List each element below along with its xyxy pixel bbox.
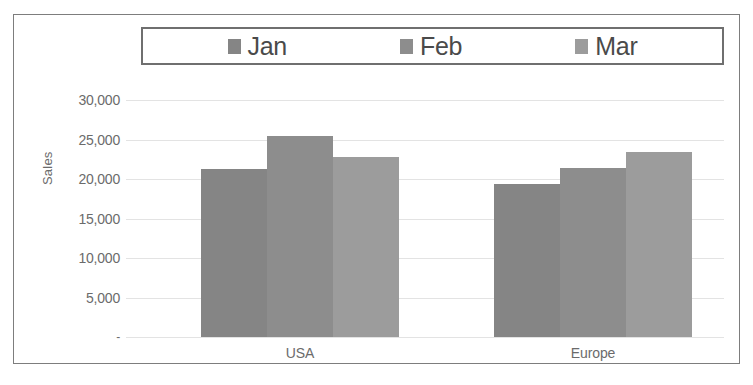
x-axis: USAEurope (126, 345, 724, 369)
y-tick-label-15000: 15,000 (78, 211, 120, 227)
bar-europe-feb[interactable] (560, 168, 626, 337)
legend-label-jan: Jan (248, 34, 287, 59)
chart-frame: Jan Feb Mar Sales 30,00025,00020,00015,0… (13, 14, 740, 364)
legend-label-mar: Mar (595, 34, 637, 59)
gridline-0 (126, 337, 724, 338)
bar-usa-jan[interactable] (201, 169, 267, 337)
bar-series-container (126, 100, 724, 337)
bar-europe-mar[interactable] (626, 152, 692, 337)
legend-swatch-feb (400, 39, 413, 54)
y-axis: 30,00025,00020,00015,00010,0005,000- (42, 100, 120, 337)
legend-item-jan[interactable]: Jan (228, 34, 287, 59)
bar-usa-feb[interactable] (267, 136, 333, 337)
legend-label-feb: Feb (420, 34, 462, 59)
y-tick-label-20000: 20,000 (78, 171, 120, 187)
x-axis-label-europe: Europe (571, 345, 616, 361)
y-tick-label-30000: 30,000 (78, 92, 120, 108)
y-tick-label-25000: 25,000 (78, 132, 120, 148)
bar-usa-mar[interactable] (333, 157, 399, 338)
plot-area (126, 100, 724, 337)
bar-europe-jan[interactable] (494, 184, 560, 337)
y-tick-label-0: - (116, 330, 120, 344)
y-tick-label-10000: 10,000 (78, 250, 120, 266)
x-axis-label-usa: USA (286, 345, 315, 361)
chart-legend[interactable]: Jan Feb Mar (141, 27, 724, 65)
legend-item-feb[interactable]: Feb (400, 34, 462, 59)
y-tick-label-5000: 5,000 (86, 290, 120, 306)
legend-swatch-jan (228, 39, 241, 54)
chart-screenshot: Jan Feb Mar Sales 30,00025,00020,00015,0… (0, 0, 753, 385)
legend-item-mar[interactable]: Mar (575, 34, 637, 59)
legend-swatch-mar (575, 39, 588, 54)
